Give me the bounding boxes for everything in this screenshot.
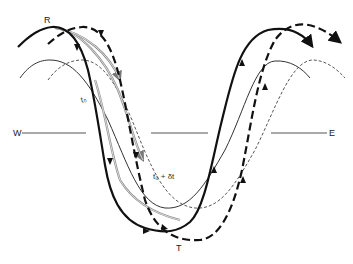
trough-label: T: [176, 244, 182, 253]
arrow-icon: [133, 152, 139, 159]
thick-dashed-streamline-t0dt: [48, 24, 340, 240]
arrow-icon: [262, 83, 268, 90]
parcel-trajectories: [55, 28, 180, 220]
arrow-icon: [107, 158, 113, 165]
wave-diagram: [0, 0, 353, 264]
west-label: W: [13, 129, 22, 138]
ridge-label: R: [44, 16, 51, 25]
t0-plus-dt-label: t₀ + δt: [153, 173, 174, 181]
thin-dashed-contour-t0dt: [48, 60, 345, 208]
east-label: E: [329, 129, 335, 138]
arrow-icon: [98, 30, 104, 37]
arrow-icon: [161, 224, 168, 230]
thin-solid-contour-t0: [20, 60, 310, 208]
